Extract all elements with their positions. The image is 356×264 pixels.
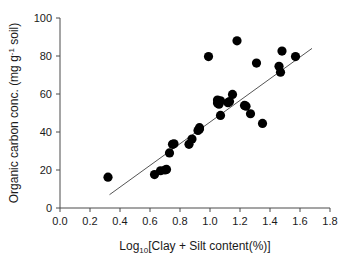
y-tick-label: 40: [40, 126, 52, 138]
x-axis-title: Log10[Clay + Silt content(%)]: [119, 239, 270, 255]
x-tick-label: 1.8: [322, 215, 337, 227]
x-tick-label: 0.0: [52, 215, 67, 227]
y-tick-label: 100: [34, 12, 52, 24]
x-axis-ticks: [60, 208, 330, 212]
data-point: [165, 148, 174, 157]
data-point: [169, 139, 178, 148]
data-point: [162, 165, 171, 174]
x-tick-label: 1.0: [202, 215, 217, 227]
data-point: [103, 173, 112, 182]
y-axis-tick-labels: 020406080100: [34, 12, 52, 214]
data-point: [258, 119, 267, 128]
y-axis-title: Organic carbon conc. (mg g-1 soil): [7, 23, 21, 204]
y-tick-label: 0: [46, 202, 52, 214]
x-tick-label: 0.8: [172, 215, 187, 227]
x-axis-tick-labels: 0.00.20.40.60.81.01.21.41.61.8: [52, 215, 337, 227]
data-point: [216, 111, 225, 120]
chart-figure: 0.00.20.40.60.81.01.21.41.61.8 020406080…: [0, 0, 356, 264]
data-point: [291, 52, 300, 61]
data-points: [103, 36, 300, 182]
data-point: [246, 109, 255, 118]
data-point: [228, 90, 237, 99]
x-tick-label: 1.2: [232, 215, 247, 227]
x-tick-label: 1.4: [262, 215, 277, 227]
x-tick-label: 0.6: [142, 215, 157, 227]
data-point: [187, 134, 196, 143]
data-point: [276, 68, 285, 77]
scatter-plot: 0.00.20.40.60.81.01.21.41.61.8 020406080…: [0, 0, 356, 264]
data-point: [204, 52, 213, 61]
data-point: [232, 36, 241, 45]
y-axis-ticks: [56, 18, 60, 208]
x-tick-label: 0.4: [112, 215, 127, 227]
data-point: [252, 58, 261, 67]
data-point: [277, 46, 286, 55]
y-tick-label: 60: [40, 88, 52, 100]
data-point: [195, 124, 204, 133]
y-tick-label: 80: [40, 50, 52, 62]
x-tick-label: 1.6: [292, 215, 307, 227]
y-tick-label: 20: [40, 164, 52, 176]
x-tick-label: 0.2: [82, 215, 97, 227]
